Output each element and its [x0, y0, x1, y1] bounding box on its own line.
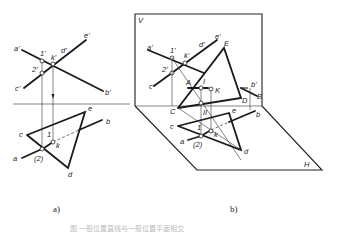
label-2-prime: 2' — [31, 65, 38, 74]
label-I: I — [203, 77, 205, 86]
label-c: c — [19, 130, 23, 139]
label-1-prime: 1' — [40, 49, 46, 58]
figure-b: V H a' b' c' d' e' 1' 2' k' A B D E K I … — [135, 14, 322, 214]
label-d: d — [244, 147, 249, 156]
point-2-prime — [40, 71, 44, 75]
h-plane — [135, 106, 322, 170]
label-k-prime: k' — [51, 53, 57, 62]
label-a-prime: a' — [14, 44, 20, 53]
arrow-down-icon — [52, 94, 55, 99]
intersection-diagram: a' b' c' d' e' 1' 2' k' a b c d e 1 (2) … — [0, 0, 339, 235]
label-k-prime: k' — [184, 51, 190, 60]
label-b: b — [256, 110, 260, 119]
label-c-prime: c' — [15, 84, 21, 93]
label-2: (2) — [193, 140, 203, 149]
label-II: II — [203, 108, 207, 117]
point-2 — [40, 147, 44, 151]
label-2-prime: 2' — [161, 65, 168, 74]
label-b-prime: b' — [251, 80, 257, 89]
point-k-prime — [183, 61, 187, 65]
label-B: B — [257, 92, 262, 101]
figure-a: a' b' c' d' e' 1' 2' k' a b c d e 1 (2) … — [13, 31, 130, 214]
label-e: e — [232, 106, 236, 115]
figure-caption: 图 一般位置直线与一般位置平面相交 — [70, 224, 184, 233]
label-d-prime: d' — [61, 46, 67, 55]
label-e: e — [88, 104, 92, 113]
point-k — [51, 140, 55, 144]
label-d-prime: d' — [199, 40, 205, 49]
caption-a: a) — [53, 204, 60, 214]
label-1: 1 — [47, 130, 51, 139]
label-A: A — [185, 78, 191, 87]
label-C: C — [170, 107, 176, 116]
label-1: 1 — [197, 123, 201, 132]
label-H: H — [304, 160, 310, 169]
label-d: d — [68, 170, 73, 179]
label-K: K — [215, 86, 221, 95]
label-V: V — [138, 16, 144, 25]
point-k-prime — [51, 62, 55, 66]
line-to-B — [241, 88, 257, 96]
label-b-prime: b' — [105, 88, 111, 97]
label-b: b — [106, 117, 110, 126]
label-D: D — [242, 96, 248, 105]
label-c-prime: c' — [149, 82, 155, 91]
label-e-prime: e' — [84, 31, 90, 40]
label-1-prime: 1' — [170, 46, 176, 55]
point-I — [199, 86, 203, 90]
point-K — [209, 87, 213, 91]
label-e-prime: e' — [215, 32, 221, 41]
label-2: (2) — [34, 154, 44, 163]
point-k — [209, 129, 213, 133]
point-1-prime — [40, 59, 44, 63]
v-plane — [135, 14, 262, 106]
point-II — [199, 101, 203, 105]
label-a: a — [180, 137, 184, 146]
label-E: E — [224, 39, 230, 48]
label-a: a — [13, 154, 17, 163]
caption-b: b) — [230, 204, 238, 214]
label-a-prime: a' — [147, 43, 153, 52]
label-c: c — [170, 122, 174, 131]
label-k: k — [56, 141, 61, 150]
point-2 — [199, 134, 203, 138]
